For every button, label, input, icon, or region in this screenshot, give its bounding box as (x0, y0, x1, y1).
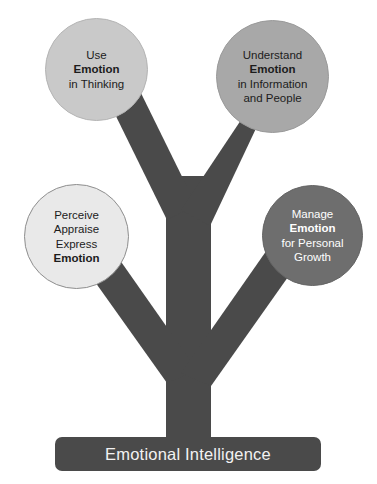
banner-label: Emotional Intelligence (105, 445, 271, 464)
node-manage-emotion[interactable]: Manage Emotion for Personal Growth (262, 185, 363, 286)
banner-emotional-intelligence: Emotional Intelligence (55, 437, 321, 471)
emotional-intelligence-diagram: Use Emotion in Thinking Understand Emoti… (0, 0, 377, 484)
node-understand-emotion[interactable]: Understand Emotion in Information and Pe… (216, 20, 329, 133)
node-use-emotion[interactable]: Use Emotion in Thinking (45, 18, 148, 121)
node-understand-emotion-label: Understand Emotion in Information and Pe… (234, 48, 312, 106)
node-manage-emotion-label: Manage Emotion for Personal Growth (277, 207, 347, 265)
node-use-emotion-label: Use Emotion in Thinking (65, 48, 128, 91)
node-perceive-emotion[interactable]: Perceive Appraise Express Emotion (24, 184, 129, 289)
node-perceive-emotion-label: Perceive Appraise Express Emotion (50, 208, 104, 266)
